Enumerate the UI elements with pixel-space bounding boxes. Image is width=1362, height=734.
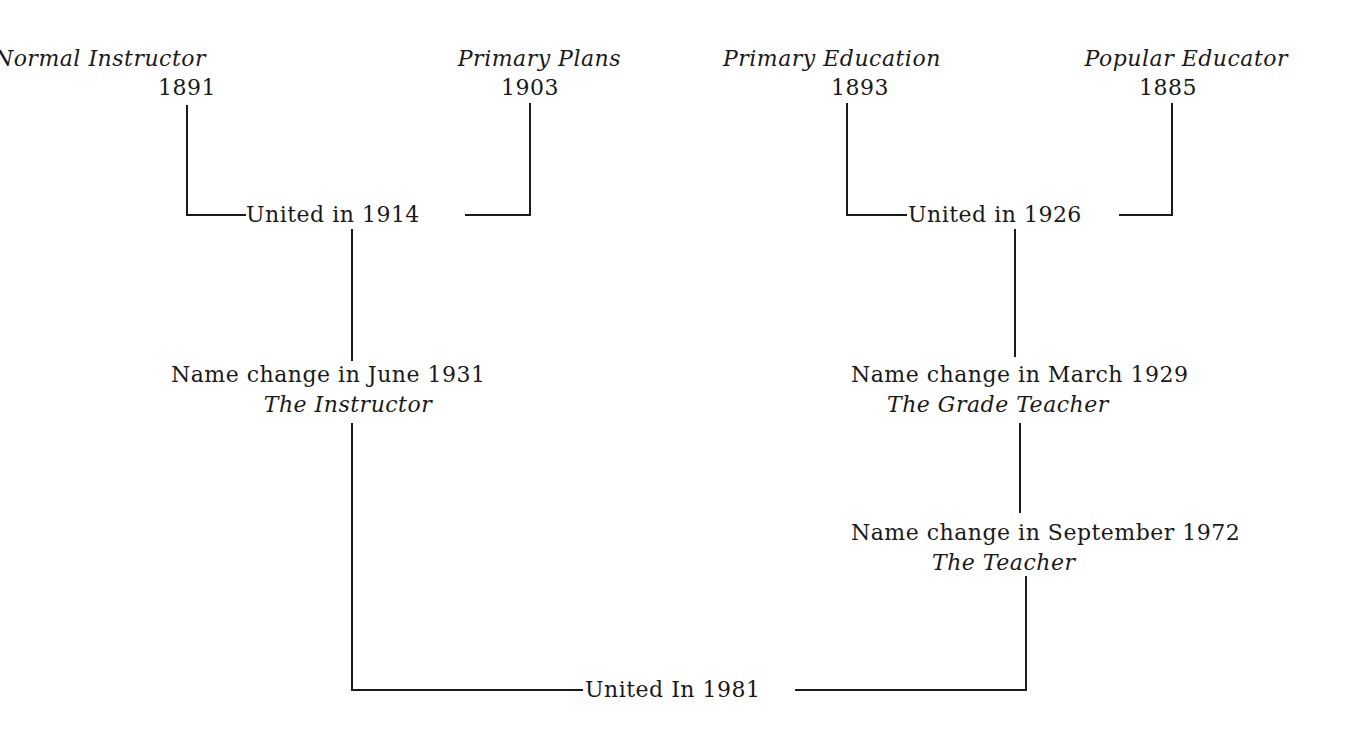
- new-title-the-teacher: The Teacher: [932, 550, 1075, 576]
- new-title-the-grade-teacher: The Grade Teacher: [887, 392, 1109, 418]
- source-title-primary-plans: Primary Plans: [458, 46, 621, 72]
- source-year-primary-plans: 1903: [501, 75, 559, 101]
- source-year-normal-instructor: 1891: [158, 75, 216, 101]
- merger-1926: United in 1926: [908, 202, 1082, 228]
- source-title-popular-educator: Popular Educator: [1085, 46, 1288, 72]
- merger-1981: United In 1981: [585, 677, 761, 703]
- source-year-primary-education: 1893: [831, 75, 889, 101]
- source-year-popular-educator: 1885: [1139, 75, 1197, 101]
- name-change-1929: Name change in March 1929: [851, 362, 1188, 388]
- source-title-primary-education: Primary Education: [723, 46, 941, 72]
- new-title-the-instructor: The Instructor: [264, 392, 432, 418]
- source-title-normal-instructor: Normal Instructor: [0, 46, 206, 72]
- name-change-1972: Name change in September 1972: [851, 520, 1240, 546]
- merger-1914: United in 1914: [246, 202, 420, 228]
- name-change-1931: Name change in June 1931: [171, 362, 485, 388]
